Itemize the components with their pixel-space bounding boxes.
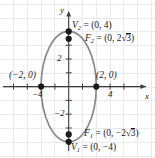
sqrt-icon: √3 [122,33,131,43]
point-v2 [66,28,72,34]
ellipse-figure: y x −4 4 2 −2 V2 = (0, 4) F2 = (0, 2√3) … [0,0,155,158]
label-vertex-v1: V1 = (0, −4) [71,143,116,153]
x-axis-label: x [145,92,149,101]
y-tick-label-minus2: −2 [54,109,65,118]
label-f1-equation: = (0, −2 [93,128,126,138]
x-tick-label-4: 4 [108,90,113,99]
point-f2 [66,36,72,42]
label-left-covertex: (−2, 0) [9,71,36,81]
label-f2-close: ) [131,33,134,43]
label-f1-close: ) [135,128,138,138]
label-vertex-v2: V2 = (0, 4) [72,21,112,31]
label-v1-equation: = (0, −4) [80,142,116,152]
y-tick-label-2: 2 [57,54,62,63]
x-axis-arrow [141,84,147,89]
y-axis-arrow [66,11,71,17]
point-right-covertex [93,84,99,90]
label-f2-equation: = (0, 2 [94,33,122,43]
sqrt-icon: √3 [126,128,135,138]
label-right-covertex: (2, 0) [96,71,117,81]
label-focus-f2: F2 = (0, 2√3) [85,33,134,44]
label-focus-f1: F1 = (0, −2√3) [84,128,139,139]
point-f1 [66,131,72,137]
label-v2-equation: = (0, 4) [81,20,112,30]
y-axis-label: y [60,6,64,15]
x-tick-label-minus4: −4 [32,90,43,99]
